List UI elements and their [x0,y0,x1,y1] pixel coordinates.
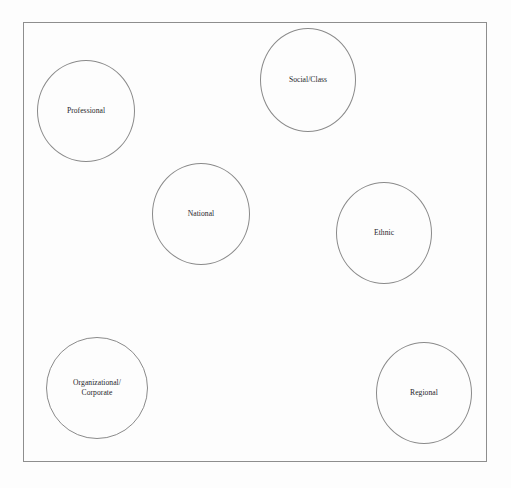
circle-node-ethnic[interactable]: Ethnic [336,182,432,284]
circle-node-professional[interactable]: Professional [37,60,135,162]
circle-node-national[interactable]: National [152,163,250,265]
circle-node-organizational-corporate[interactable]: Organizational/ Corporate [46,337,148,439]
diagram-canvas: Professional Social/Class National Ethni… [0,0,511,488]
circle-label-professional: Professional [67,106,105,117]
circle-label-national: National [188,209,215,220]
circle-node-regional[interactable]: Regional [376,342,472,444]
circle-node-social-class[interactable]: Social/Class [260,28,356,132]
circle-label-organizational-corporate: Organizational/ Corporate [73,378,121,399]
circle-label-social-class: Social/Class [289,75,327,86]
circle-label-ethnic: Ethnic [374,228,394,239]
circle-label-regional: Regional [410,388,438,399]
